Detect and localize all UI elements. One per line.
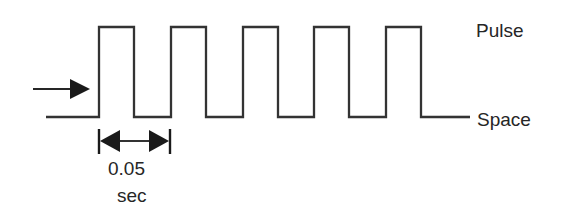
space-level-label: Space (477, 110, 531, 129)
pulse-train-waveform (46, 27, 470, 117)
dimension-arrowhead-right (149, 130, 169, 152)
pulse-level-label: Pulse (476, 21, 524, 40)
waveform-figure: Pulse Space 0.05 sec (0, 0, 567, 216)
dimension-arrowhead-left (100, 130, 120, 152)
dimension-value-label: 0.05 (108, 159, 145, 178)
input-arrow-icon (33, 79, 90, 99)
period-dimension-marker (99, 129, 170, 154)
dimension-unit-label: sec (117, 186, 147, 205)
